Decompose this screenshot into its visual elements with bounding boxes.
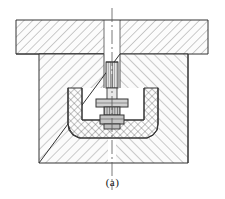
top-plate-left-hatch (16, 20, 104, 54)
figure-container: (a) (0, 0, 225, 199)
figure-caption: (a) (0, 176, 225, 188)
technical-drawing (0, 0, 225, 199)
top-plate-right-hatch (120, 20, 208, 54)
